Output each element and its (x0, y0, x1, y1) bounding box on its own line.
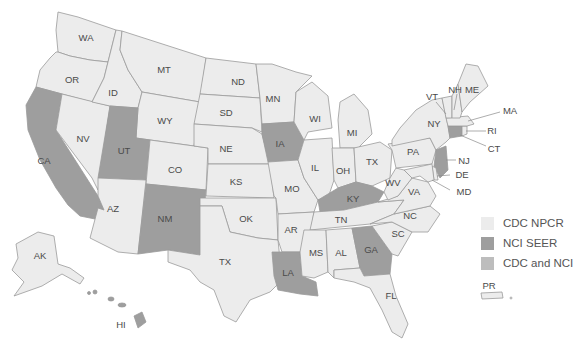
label-IN: OH (336, 165, 350, 176)
label-DE: DE (455, 169, 468, 180)
label-OR: OR (65, 74, 79, 85)
legend-label: CDC NPCR (503, 217, 564, 229)
label-PR: PR (482, 280, 495, 291)
label-MO: MO (284, 183, 299, 194)
state-AZ[interactable] (90, 178, 146, 254)
state-CT[interactable] (448, 126, 462, 138)
label-SD: SD (219, 107, 232, 118)
label-AZ: AZ (107, 203, 119, 214)
label-OH: TX (366, 156, 379, 167)
label-KS: KS (230, 176, 243, 187)
label-ME: ME (465, 84, 479, 95)
label-WI: WI (309, 113, 321, 124)
label-RI: RI (487, 125, 497, 136)
state-AK[interactable] (12, 232, 84, 296)
label-NC: NC (403, 210, 417, 221)
label-AK: AK (34, 250, 47, 261)
label-VT: VT (426, 91, 438, 102)
label-MA: MA (503, 105, 518, 116)
label-NH: NH (448, 84, 462, 95)
label-NY: NY (427, 118, 441, 129)
label-ID: ID (108, 87, 118, 98)
label-MN: MN (266, 93, 281, 104)
label-NM: NM (158, 213, 173, 224)
label-NJ: NJ (458, 155, 470, 166)
state-MI[interactable] (338, 94, 372, 148)
legend-swatch-nci-seer (481, 237, 494, 250)
legend-label: NCI SEER (503, 237, 557, 249)
label-WV: WV (385, 177, 401, 188)
label-OK: OK (239, 213, 253, 224)
label-ND: ND (231, 76, 245, 87)
label-WY: WY (157, 115, 173, 126)
label-IA: IA (276, 138, 286, 149)
legend-swatch-cdc-and-nci (481, 257, 494, 270)
label-LA: LA (282, 267, 294, 278)
label-CA: CA (37, 155, 51, 166)
label-NV: NV (76, 133, 90, 144)
label-MS: MS (309, 247, 323, 258)
state-PR[interactable] (481, 292, 512, 299)
label-MD: MD (457, 186, 472, 197)
label-SC: SC (391, 228, 404, 239)
legend-item-cdc-npcr: CDC NPCR (481, 213, 573, 233)
label-KY: KY (347, 193, 360, 204)
label-IL: IL (311, 162, 319, 173)
label-PA: PA (407, 146, 420, 157)
label-MT: MT (157, 64, 171, 75)
label-CO: CO (168, 164, 182, 175)
legend-item-nci-seer: NCI SEER (481, 233, 573, 253)
legend-swatch-cdc-npcr (481, 217, 494, 230)
legend: CDC NPCR NCI SEER CDC and NCI (481, 213, 573, 273)
label-TN: TN (335, 214, 348, 225)
state-WI[interactable] (294, 82, 332, 140)
state-FL[interactable] (334, 268, 408, 338)
label-WA: WA (79, 32, 95, 43)
label-UT: UT (118, 145, 131, 156)
label-GA: GA (364, 244, 378, 255)
us-cancer-registry-map: WA OR CA NV ID MT WY UT CO AZ NM ND SD N… (0, 0, 587, 343)
state-ND[interactable] (200, 58, 260, 98)
label-VA: VA (408, 186, 421, 197)
label-CT: CT (488, 143, 501, 154)
label-AR: AR (284, 224, 297, 235)
label-FL: FL (385, 290, 396, 301)
label-AL: AL (335, 247, 347, 258)
label-HI: HI (116, 319, 126, 330)
legend-item-cdc-and-nci: CDC and NCI (481, 253, 573, 273)
label-TX: TX (219, 256, 232, 267)
label-MI: MI (347, 127, 358, 138)
legend-label: CDC and NCI (503, 257, 573, 269)
label-NE: NE (219, 143, 232, 154)
